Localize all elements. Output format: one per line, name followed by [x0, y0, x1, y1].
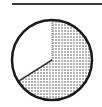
top-rule-divider	[12, 3, 102, 5]
pie-chart	[10, 18, 94, 102]
pie-chart-svg	[10, 18, 94, 102]
